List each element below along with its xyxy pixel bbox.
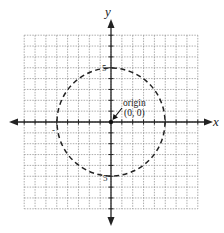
y-axis-label: y [103,4,111,19]
y-axis-arrow-up [108,19,115,28]
x-axis-arrow-right [204,119,213,126]
tick-label-x-neg5: - [52,125,55,135]
y-axis-arrow-down [108,217,115,226]
tick-label-y-5: 5 [102,63,107,73]
origin-label: origin [123,98,146,108]
tick-label-y-neg5: 5 [103,173,108,183]
coordinate-plane: y x 5 5 - origin (0, 0) [0,0,224,233]
origin-coords-label: (0, 0) [124,108,145,119]
x-axis-label: x [212,114,219,129]
origin-point [109,120,113,124]
x-axis-arrow-left [9,119,18,126]
